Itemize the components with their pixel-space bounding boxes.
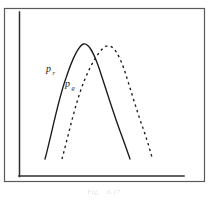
figure-frame [5, 9, 205, 182]
p-r-label-base: p [45, 63, 51, 74]
figure-caption: Fig.6.17 [0, 188, 208, 197]
distribution-plot: p r p g [0, 0, 208, 204]
figure-caption-number: 6.17 [107, 188, 121, 196]
figure-root: p r p g Fig.6.17 [0, 0, 208, 204]
p-g-label-base: p [64, 78, 70, 89]
figure-caption-label: Fig. [87, 188, 100, 196]
